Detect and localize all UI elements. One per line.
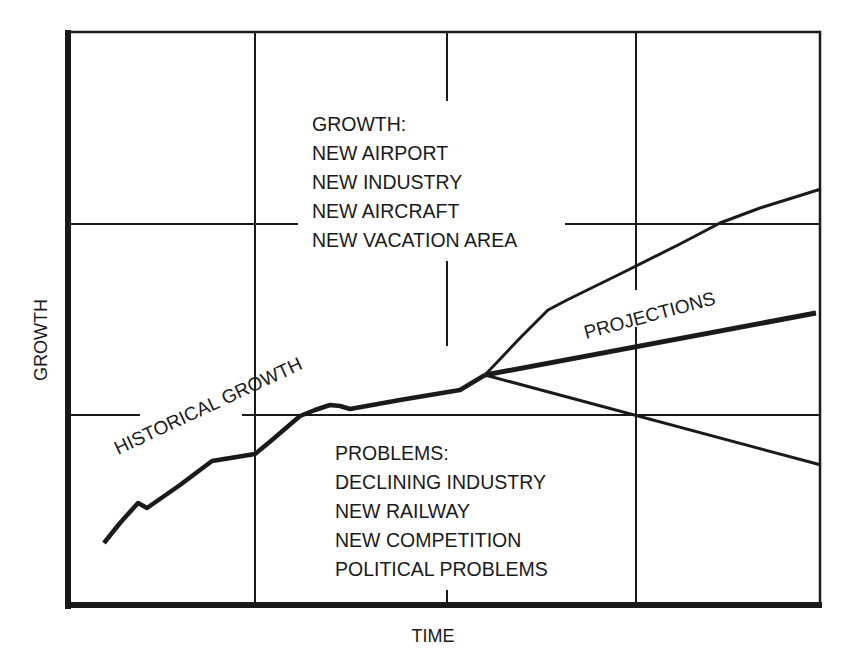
problems-item: POLITICAL PROBLEMS <box>335 558 548 580</box>
projection-upper-line <box>485 189 821 375</box>
problems-item: NEW RAILWAY <box>335 500 470 522</box>
growth-item: NEW AIRCRAFT <box>312 200 459 222</box>
projection-lower-line <box>485 375 821 465</box>
problems-item: DECLINING INDUSTRY <box>335 471 546 493</box>
problems-item: NEW COMPETITION <box>335 529 521 551</box>
growth-item: NEW AIRPORT <box>312 142 448 164</box>
historical-growth-label: HISTORICAL GROWTH <box>111 353 305 459</box>
growth-item: NEW INDUSTRY <box>312 171 462 193</box>
y-axis-label: GROWTH <box>31 299 51 381</box>
growth-factors-block: GROWTH: NEW AIRPORT NEW INDUSTRY NEW AIR… <box>312 113 517 251</box>
problems-factors-block: PROBLEMS: DECLINING INDUSTRY NEW RAILWAY… <box>335 442 548 580</box>
x-axis-label: TIME <box>412 626 455 646</box>
chart-frame <box>65 30 822 609</box>
growth-item: NEW VACATION AREA <box>312 229 517 251</box>
problems-block-title: PROBLEMS: <box>335 442 449 464</box>
growth-forecast-diagram: GROWTH: NEW AIRPORT NEW INDUSTRY NEW AIR… <box>0 0 851 662</box>
growth-block-title: GROWTH: <box>312 113 406 135</box>
